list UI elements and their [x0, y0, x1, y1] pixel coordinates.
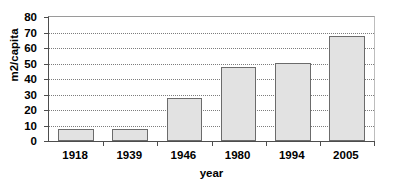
y-axis-tick: 20 [44, 110, 49, 111]
gridline [49, 95, 374, 96]
y-axis-tick: 0 [44, 141, 49, 142]
x-axis-tick [320, 141, 321, 146]
x-axis-tick-label: 1946 [171, 150, 197, 162]
x-axis-tick [157, 141, 158, 146]
y-axis-tick-label: 30 [24, 90, 37, 102]
bar-1946 [167, 98, 203, 141]
x-axis-tick-label: 1939 [116, 150, 142, 162]
y-axis-tick-label: 50 [24, 59, 37, 71]
y-axis-title: m2/capita [7, 5, 21, 105]
y-axis-tick: 10 [44, 126, 49, 127]
y-axis-tick: 30 [44, 95, 49, 96]
gridline [49, 33, 374, 34]
bar-chart-figure: m2/capita 01020304050607080 191819391946… [0, 0, 395, 184]
y-axis-tick: 70 [44, 33, 49, 34]
y-axis-tick-label: 60 [24, 43, 37, 55]
y-axis-tick-label: 20 [24, 105, 37, 117]
y-axis-tick-label: 10 [24, 121, 37, 133]
gridline [49, 126, 374, 127]
y-axis-tick: 40 [44, 79, 49, 80]
bar-1994 [275, 63, 311, 141]
gridline [49, 64, 374, 65]
x-axis-tick-label: 1980 [225, 150, 251, 162]
bar-1918 [58, 129, 94, 141]
y-axis-tick-label: 40 [24, 74, 37, 86]
bar-2005 [329, 36, 365, 141]
y-axis-tick-label: 70 [24, 28, 37, 40]
gridline [49, 110, 374, 111]
x-axis-title: year [48, 168, 375, 180]
bar-1939 [112, 129, 148, 141]
y-axis-tick: 80 [44, 17, 49, 18]
y-axis-tick-label: 80 [24, 12, 37, 24]
x-axis-tick-label: 2005 [333, 150, 359, 162]
x-axis-tick [266, 141, 267, 146]
x-axis-tick [103, 141, 104, 146]
plot-area: 01020304050607080 [48, 16, 375, 142]
x-axis-tick [374, 141, 375, 146]
y-axis-tick: 60 [44, 48, 49, 49]
y-axis-tick: 50 [44, 64, 49, 65]
x-axis-tick-label: 1918 [62, 150, 88, 162]
x-axis-tick [212, 141, 213, 146]
y-axis-tick-label: 0 [31, 136, 37, 148]
x-axis-tick-label: 1994 [279, 150, 305, 162]
gridline [49, 48, 374, 49]
gridline [49, 79, 374, 80]
bar-1980 [221, 67, 257, 141]
